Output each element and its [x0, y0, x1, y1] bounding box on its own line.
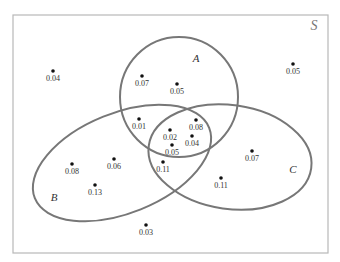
point-value: 0.05	[165, 148, 179, 157]
venn-diagram: S A B C 0.040.070.050.050.010.080.020.04…	[0, 0, 340, 262]
point-dot	[175, 82, 179, 86]
point-dot	[161, 160, 165, 164]
point-value: 0.04	[46, 74, 60, 83]
point-dot	[190, 134, 194, 138]
point-dot	[70, 162, 74, 166]
point-value: 0.02	[163, 133, 177, 142]
point-dot	[137, 117, 141, 121]
point-value: 0.05	[170, 87, 184, 96]
point-dot	[51, 69, 55, 73]
point-dot	[291, 62, 295, 66]
point-dot	[112, 157, 116, 161]
point-value: 0.04	[185, 139, 199, 148]
point-value: 0.08	[189, 123, 203, 132]
sample-space-label: S	[311, 18, 318, 33]
point-value: 0.07	[245, 154, 259, 163]
point-value: 0.05	[286, 67, 300, 76]
point-value: 0.01	[132, 122, 146, 131]
point-dot	[219, 176, 223, 180]
point-value: 0.06	[107, 162, 121, 171]
point-value: 0.11	[214, 181, 228, 190]
point-dot	[170, 143, 174, 147]
point-dot	[144, 223, 148, 227]
point-dot	[168, 128, 172, 132]
point-dot	[140, 74, 144, 78]
point-value: 0.11	[156, 165, 170, 174]
point-dot	[250, 149, 254, 153]
point-value: 0.07	[135, 79, 149, 88]
point-dot	[194, 118, 198, 122]
set-a-label: A	[192, 52, 200, 64]
point-dot	[93, 183, 97, 187]
point-value: 0.03	[139, 228, 153, 237]
set-b-label: B	[51, 191, 58, 203]
point-value: 0.08	[65, 167, 79, 176]
set-c-label: C	[289, 163, 297, 175]
point-value: 0.13	[88, 188, 102, 197]
